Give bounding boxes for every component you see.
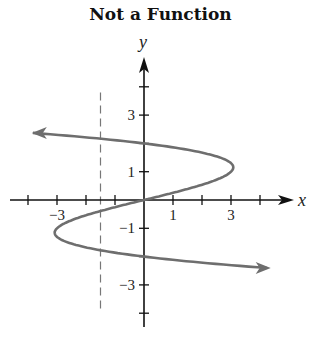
y-tick-label: −1: [119, 220, 135, 236]
x-tick-label: −3: [49, 207, 65, 223]
axes: [10, 57, 294, 327]
x-tick-label: 1: [169, 207, 177, 223]
y-axis-label: y: [137, 32, 147, 52]
x-tick-label: 3: [227, 207, 235, 223]
y-tick-label: −3: [119, 277, 135, 293]
y-tick-label: 1: [128, 164, 136, 180]
y-tick-label: 3: [128, 107, 136, 123]
plot-area: −31331−1−3 x y: [0, 0, 321, 340]
x-axis-label: x: [297, 190, 306, 210]
